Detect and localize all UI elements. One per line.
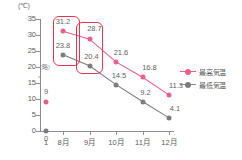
data-point bbox=[114, 82, 119, 87]
legend-marker-min-icon bbox=[180, 81, 196, 88]
legend-item-max: 最高気温 bbox=[180, 66, 226, 77]
legend-label-max: 最高気温 bbox=[199, 67, 226, 77]
data-point bbox=[44, 100, 49, 105]
data-point-label: 21.6 bbox=[114, 49, 129, 57]
data-point-label: 16.8 bbox=[142, 64, 157, 72]
highlight-september bbox=[76, 22, 103, 74]
data-point bbox=[44, 129, 49, 134]
data-point-label: 14.5 bbox=[112, 72, 127, 80]
data-point-label: 9.2 bbox=[140, 89, 150, 97]
data-point-label: 4.1 bbox=[170, 105, 180, 113]
chart-root: (℃) 05101520253035 18月9月10月11月12月 ≈ (略) … bbox=[0, 0, 242, 160]
legend-label-min: 最低気温 bbox=[199, 80, 226, 90]
data-point bbox=[140, 75, 145, 80]
data-point-label: 9 bbox=[44, 88, 48, 96]
legend-item-min: 最低気温 bbox=[180, 79, 226, 90]
legend: 最高気温 最低気温 bbox=[180, 66, 226, 92]
data-point bbox=[167, 92, 172, 97]
data-point bbox=[114, 59, 119, 64]
data-point bbox=[167, 115, 172, 120]
data-point-label: 0 bbox=[44, 135, 48, 143]
data-point bbox=[140, 99, 145, 104]
legend-marker-max-icon bbox=[180, 68, 196, 75]
